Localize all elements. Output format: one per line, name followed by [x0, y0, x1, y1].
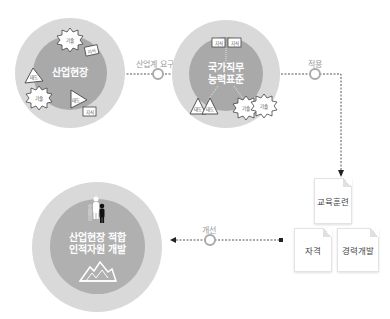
svg-text:지식: 지식	[86, 109, 94, 116]
career-card: 경력개발	[337, 228, 379, 272]
industry-demand-label: 산업계 요구	[136, 58, 174, 69]
svg-text:태도: 태도	[30, 74, 38, 81]
folder-icon: 지식	[83, 107, 96, 116]
gear-icon: 기술	[26, 86, 52, 110]
svg-text:태도: 태도	[72, 97, 80, 104]
training-card-label: 교육훈련	[317, 195, 349, 207]
result-label: 산업현장 적합 인적자원 개발	[55, 232, 140, 256]
gear-icon: 기술	[251, 94, 277, 118]
svg-text:지식: 지식	[231, 40, 239, 47]
career-card-label: 경력개발	[342, 244, 374, 256]
triangle-icon: 태도	[71, 90, 87, 108]
svg-text:태도: 태도	[206, 106, 214, 113]
result-label-line2: 인적자원 개발	[55, 244, 140, 256]
svg-text:태도: 태도	[194, 106, 202, 113]
industry-icons: 기술 지식 태도 기술 태도 지식	[15, 18, 125, 128]
qualification-card-label: 자격	[305, 244, 321, 256]
ncs-diagram: 산업계 요구 적용 개선 산업현장 기술 지식 태도 기술	[0, 0, 390, 319]
folder-icon: 지식	[228, 38, 241, 47]
folder-icon: 지식	[84, 45, 99, 57]
ncs-icons: 지식 지식 태도 태도 기술 기술	[172, 20, 280, 128]
qualification-card: 자격	[294, 228, 332, 272]
triangle-icon: 태도	[25, 68, 43, 83]
training-card: 교육훈련	[314, 178, 352, 224]
svg-text:지식: 지식	[215, 40, 223, 47]
svg-text:기술: 기술	[260, 103, 268, 110]
triangle-icon: 태도	[202, 98, 218, 114]
apply-label: 적용	[308, 58, 322, 69]
people-icon	[80, 196, 110, 226]
svg-text:기술: 기술	[66, 37, 74, 44]
svg-text:기술: 기술	[35, 95, 43, 102]
mountain-icon	[78, 260, 118, 282]
result-label-line1: 산업현장 적합	[55, 232, 140, 244]
svg-text:기술: 기술	[242, 105, 250, 112]
folder-icon: 지식	[212, 38, 225, 47]
improve-label: 개선	[202, 224, 216, 235]
gear-icon: 기술	[57, 28, 83, 52]
